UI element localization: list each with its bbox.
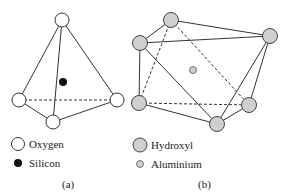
caption-b: (b) bbox=[198, 178, 211, 190]
hydroxyl-legend-icon bbox=[133, 138, 147, 152]
caption-a: (a) bbox=[62, 178, 74, 190]
tetrahedron bbox=[19, 20, 117, 122]
legend-hydroxyl-label: Hydroxyl bbox=[151, 139, 193, 151]
legend-silicon-label: Silicon bbox=[29, 157, 60, 169]
figure: Oxygen Silicon (a) Hydroxyl Aluminium (b… bbox=[0, 0, 284, 193]
silicon-atom bbox=[59, 78, 67, 86]
aluminium-legend-icon bbox=[137, 161, 144, 168]
oxygen-atoms bbox=[12, 13, 124, 129]
hydroxyl-atoms bbox=[132, 13, 278, 132]
legend-aluminium-label: Aluminium bbox=[151, 158, 202, 170]
oxygen-legend-icon bbox=[12, 138, 25, 151]
silicon-legend-icon bbox=[14, 159, 22, 167]
aluminium-atom bbox=[190, 67, 197, 74]
legend-oxygen-label: Oxygen bbox=[29, 138, 64, 150]
